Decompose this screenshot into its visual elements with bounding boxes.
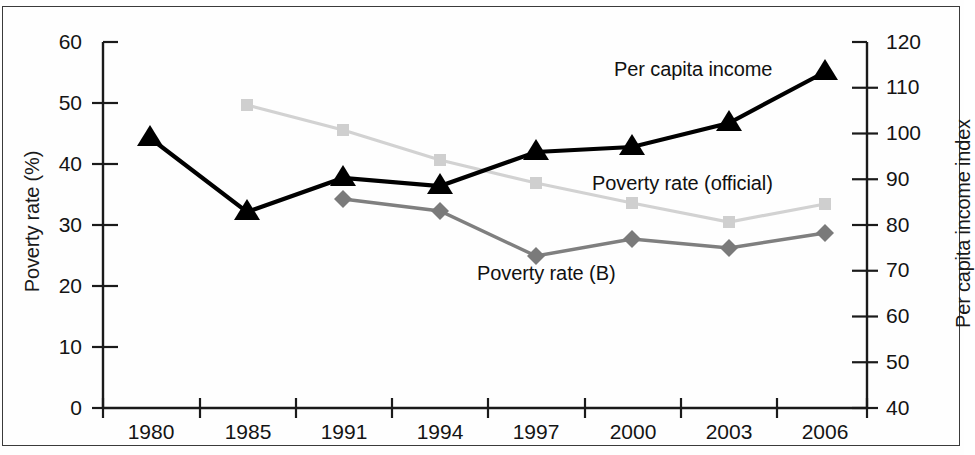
series-label-poverty-official: Poverty rate (official) [592, 172, 773, 195]
series-per-capita-income [137, 59, 838, 220]
y-left-tick-10: 10 [22, 335, 82, 359]
series-poverty-b [334, 190, 834, 265]
y-left-tick-0: 0 [22, 396, 82, 420]
y-right-tick-60: 60 [886, 304, 956, 328]
x-tick-2006: 2006 [765, 420, 885, 444]
y-axis-left-ticks [92, 42, 118, 408]
y-left-tick-40: 40 [22, 152, 82, 176]
y-left-tick-20: 20 [22, 274, 82, 298]
y-right-tick-120: 120 [886, 30, 956, 54]
y-right-tick-90: 90 [886, 167, 956, 191]
series-label-per-capita-income: Per capita income [614, 58, 772, 81]
y-right-tick-110: 110 [886, 75, 956, 99]
axis-lines [103, 42, 867, 408]
y-left-tick-50: 50 [22, 91, 82, 115]
y-right-tick-100: 100 [886, 121, 956, 145]
y-left-tick-30: 30 [22, 213, 82, 237]
y-right-tick-50: 50 [886, 350, 956, 374]
y-left-tick-60: 60 [22, 30, 82, 54]
y-right-tick-80: 80 [886, 213, 956, 237]
series-label-poverty-b: Poverty rate (B) [477, 262, 615, 285]
y-right-tick-70: 70 [886, 258, 956, 282]
y-axis-right-ticks [852, 42, 878, 408]
series-poverty-official [241, 99, 831, 228]
y-right-tick-40: 40 [886, 396, 956, 420]
